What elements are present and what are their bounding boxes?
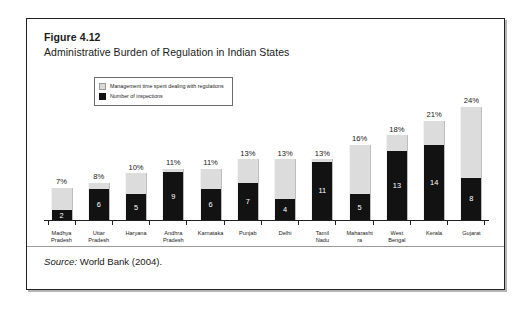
- axis-tick: [383, 221, 410, 225]
- inspections-bar: 6: [201, 189, 221, 221]
- axis-tick: [458, 221, 485, 225]
- inspections-bar: 13: [387, 151, 407, 221]
- source-note: Source: World Bank (2004).: [44, 255, 162, 268]
- bar-column: 10%5: [123, 88, 150, 221]
- axis-tick: [160, 221, 187, 225]
- bar-percent-label: 11%: [166, 158, 181, 167]
- bar-inspections-label: 11: [319, 187, 327, 195]
- management-time-bar: 8: [460, 107, 482, 221]
- bar-column: 13%11: [309, 88, 336, 221]
- bar-column: 18%13: [383, 88, 410, 221]
- bar-percent-label: 13%: [315, 149, 330, 158]
- bar-column: 8%6: [85, 88, 112, 221]
- bar-inspections-label: 8: [469, 195, 473, 203]
- bar-percent-label: 24%: [464, 96, 479, 105]
- bar-column: 24%8: [458, 88, 485, 221]
- figure-number: Figure 4.12: [44, 31, 464, 44]
- inspections-bar: 5: [126, 194, 146, 221]
- axis-tick: [309, 221, 336, 225]
- management-time-bar: 11: [311, 159, 333, 221]
- bar-group: 7%28%610%511%911%613%713%413%1116%518%13…: [44, 88, 489, 221]
- x-axis-ticks: [44, 221, 489, 225]
- bar-percent-label: 18%: [389, 125, 404, 134]
- bar-inspections-label: 4: [283, 206, 287, 214]
- bar-percent-label: 13%: [277, 149, 292, 158]
- bar-percent-label: 10%: [128, 163, 143, 172]
- management-time-bar: 4: [274, 159, 296, 221]
- axis-tick: [346, 221, 373, 225]
- bar-column: 7%2: [48, 88, 75, 221]
- axis-tick: [234, 221, 261, 225]
- figure-title: Administrative Burden of Regulation in I…: [44, 45, 464, 59]
- inspections-bar: 4: [275, 199, 295, 221]
- management-time-bar: 6: [88, 183, 110, 221]
- figure-header: Figure 4.12 Administrative Burden of Reg…: [44, 31, 464, 59]
- management-time-bar: 9: [162, 169, 184, 221]
- bar-inspections-label: 7: [246, 198, 250, 206]
- axis-tick: [85, 221, 112, 225]
- management-time-bar: 13: [386, 135, 408, 221]
- figure-frame: Figure 4.12 Administrative Burden of Reg…: [26, 18, 505, 290]
- bar-percent-label: 7%: [56, 177, 67, 186]
- axis-tick: [421, 221, 448, 225]
- inspections-bar: 14: [424, 145, 444, 221]
- source-text: World Bank (2004).: [77, 256, 162, 267]
- bar-inspections-label: 6: [209, 201, 213, 209]
- inspections-bar: 9: [163, 172, 183, 221]
- management-time-bar: 7: [237, 159, 259, 221]
- bar-percent-label: 11%: [203, 158, 218, 167]
- inspections-bar: 8: [461, 178, 481, 221]
- axis-tick: [123, 221, 150, 225]
- bar-column: 13%4: [272, 88, 299, 221]
- bar-column: 13%7: [234, 88, 261, 221]
- management-time-bar: 5: [349, 145, 371, 221]
- management-time-bar: 6: [200, 169, 222, 221]
- management-time-bar: 14: [423, 121, 445, 221]
- bar-inspections-label: 2: [59, 212, 63, 220]
- axis-tick: [48, 221, 75, 225]
- management-time-bar: 2: [51, 188, 73, 221]
- bar-percent-label: 13%: [240, 149, 255, 158]
- management-time-bar: 5: [125, 173, 147, 221]
- bar-percent-label: 8%: [93, 172, 104, 181]
- bar-column: 21%14: [421, 88, 448, 221]
- bar-inspections-label: 5: [358, 204, 362, 212]
- bar-column: 11%9: [160, 88, 187, 221]
- bar-inspections-label: 9: [171, 193, 175, 201]
- inspections-bar: 11: [312, 162, 332, 221]
- inspections-bar: 6: [89, 189, 109, 221]
- bar-inspections-label: 14: [430, 179, 438, 187]
- axis-tick: [272, 221, 299, 225]
- inspections-bar: 5: [350, 194, 370, 221]
- figure-screenshot: Figure 4.12 Administrative Burden of Reg…: [0, 0, 529, 312]
- chart-plot-area: Management time spent dealing with regul…: [44, 74, 489, 249]
- bar-column: 16%5: [346, 88, 373, 221]
- bar-inspections-label: 5: [134, 204, 138, 212]
- bar-percent-label: 21%: [427, 110, 442, 119]
- bar-percent-label: 16%: [352, 134, 367, 143]
- bar-inspections-label: 6: [97, 201, 101, 209]
- inspections-bar: 7: [238, 183, 258, 221]
- bar-column: 11%6: [197, 88, 224, 221]
- bar-inspections-label: 13: [393, 182, 401, 190]
- source-divider: [27, 246, 504, 247]
- source-prefix: Source:: [44, 256, 77, 267]
- axis-tick: [197, 221, 224, 225]
